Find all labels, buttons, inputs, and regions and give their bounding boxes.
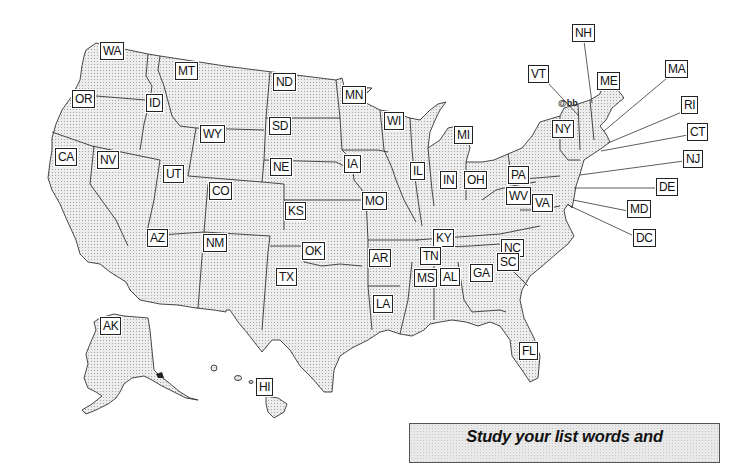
state-label-vt: VT <box>528 65 549 83</box>
state-label-nh: NH <box>572 24 595 42</box>
state-label-tn: TN <box>420 247 441 265</box>
state-label-ia: IA <box>344 155 361 173</box>
state-label-md: MD <box>627 200 651 218</box>
state-label-ca: CA <box>55 148 77 166</box>
state-label-oh: OH <box>464 171 487 189</box>
state-label-ar: AR <box>369 249 391 267</box>
state-label-co: CO <box>209 182 232 200</box>
state-label-az: AZ <box>147 229 168 247</box>
state-label-ks: KS <box>285 202 306 220</box>
state-label-ne: NE <box>270 158 292 176</box>
state-label-de: DE <box>656 178 678 196</box>
state-label-or: OR <box>72 90 95 108</box>
vt-symbol-glyphs: @bb <box>558 98 578 108</box>
state-label-nv: NV <box>97 151 119 169</box>
state-label-fl: FL <box>519 342 538 360</box>
state-label-wi: WI <box>384 112 404 130</box>
state-label-ri: RI <box>681 96 698 114</box>
state-label-me: ME <box>597 72 620 90</box>
study-instruction-box: Study your list words and <box>409 423 720 463</box>
state-label-hi: HI <box>256 378 273 396</box>
hawaii-island-1 <box>211 365 217 371</box>
state-label-ma: MA <box>665 60 688 78</box>
state-label-ny: NY <box>552 120 574 138</box>
state-label-pa: PA <box>508 166 529 184</box>
state-label-dc: DC <box>633 229 656 247</box>
state-label-il: IL <box>410 162 425 180</box>
state-label-sd: SD <box>269 117 291 135</box>
state-label-la: LA <box>373 295 393 313</box>
hawaii-big-island <box>266 396 287 418</box>
state-label-mt: MT <box>175 62 198 80</box>
state-label-sc: SC <box>497 253 519 271</box>
state-label-in: IN <box>440 171 457 189</box>
state-label-ut: UT <box>163 165 184 183</box>
study-instruction-text: Study your list words and <box>410 427 719 446</box>
state-label-mi: MI <box>454 126 473 144</box>
state-label-wy: WY <box>200 125 225 143</box>
state-label-ak: AK <box>100 317 121 335</box>
state-label-nj: NJ <box>683 150 703 168</box>
state-label-nm: NM <box>203 234 227 252</box>
state-label-mn: MN <box>342 86 366 104</box>
state-label-nd: ND <box>273 73 296 91</box>
state-label-id: ID <box>146 94 163 112</box>
state-label-ky: KY <box>433 229 454 247</box>
state-label-tx: TX <box>276 268 297 286</box>
state-label-al: AL <box>440 268 460 286</box>
state-label-wv: WV <box>506 187 531 205</box>
hawaii-island-3 <box>249 381 253 384</box>
state-label-wa: WA <box>100 42 124 60</box>
state-label-va: VA <box>532 194 553 212</box>
state-label-ok: OK <box>302 242 325 260</box>
state-label-ms: MS <box>414 269 437 287</box>
hawaii-island-2 <box>235 376 242 381</box>
state-label-mo: MO <box>362 192 387 210</box>
state-label-ct: CT <box>687 123 708 141</box>
state-label-ga: GA <box>470 264 493 282</box>
